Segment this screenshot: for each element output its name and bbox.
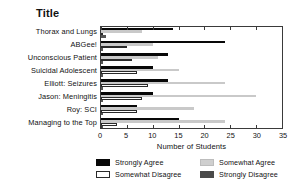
chart-legend: Strongly AgreeSomewhat AgreeSomewhat Dis… <box>96 158 292 182</box>
x-tick-label: 25 <box>227 131 235 140</box>
legend-label: Somewhat Disagree <box>115 170 181 179</box>
chart-title: Title <box>36 7 59 19</box>
bar-3 <box>101 61 103 64</box>
bar-3 <box>101 100 103 103</box>
bar-2 <box>101 59 132 62</box>
category-label: Unconscious Patient <box>0 54 97 62</box>
x-tick-mark-top <box>230 27 231 30</box>
category-axis-labels: Thorax and LungsABGee!Unconscious Patien… <box>0 26 97 129</box>
category-label: Thorax and Lungs <box>0 28 97 36</box>
x-tick-label: 20 <box>200 131 208 140</box>
bar-group <box>101 92 282 104</box>
bar-2 <box>101 110 137 113</box>
category-label: Jason: Meningitis <box>0 93 97 101</box>
legend-swatch <box>96 159 110 166</box>
x-tick-label: 5 <box>124 131 128 140</box>
bar-3 <box>101 113 103 116</box>
bar-3 <box>101 74 103 77</box>
x-tick-mark-top <box>282 27 283 30</box>
bar-group <box>101 53 282 65</box>
category-label: Managing to the Top <box>0 119 97 127</box>
bar-2 <box>101 123 117 126</box>
category-label: Suicidal Adolescent <box>0 67 97 75</box>
legend-item[interactable]: Somewhat Agree <box>200 158 275 167</box>
bar-group <box>101 105 282 117</box>
bar-group <box>101 118 282 130</box>
x-tick-mark <box>204 125 205 128</box>
x-tick-mark <box>230 125 231 128</box>
x-tick-mark-top <box>204 27 205 30</box>
bar-2 <box>101 46 127 49</box>
legend-item[interactable]: Somewhat Disagree <box>96 170 181 179</box>
x-tick-label: 0 <box>98 131 102 140</box>
x-tick-label: 10 <box>148 131 156 140</box>
category-label: Roy: SCI <box>0 106 97 114</box>
x-tick-label: 15 <box>174 131 182 140</box>
x-tick-mark-top <box>256 27 257 30</box>
plot-area <box>100 26 283 129</box>
x-axis-title: Number of Students <box>100 142 283 151</box>
x-tick-mark <box>282 125 283 128</box>
x-tick-label: 30 <box>253 131 261 140</box>
x-tick-mark <box>127 125 128 128</box>
bar-group <box>101 79 282 91</box>
legend-swatch <box>96 171 110 178</box>
legend-label: Strongly Agree <box>115 158 164 167</box>
bar-group <box>101 28 282 40</box>
legend-swatch <box>200 171 214 178</box>
legend-label: Somewhat Agree <box>219 158 275 167</box>
legend-label: Strongly Disagree <box>219 170 278 179</box>
x-tick-mark-top <box>127 27 128 30</box>
x-tick-mark-top <box>101 27 102 30</box>
x-tick-mark-top <box>179 27 180 30</box>
bar-group <box>101 66 282 78</box>
x-tick-mark <box>256 125 257 128</box>
x-tick-mark <box>153 125 154 128</box>
bar-2 <box>101 97 142 100</box>
bar-2 <box>101 71 137 74</box>
legend-swatch <box>200 159 214 166</box>
category-label: Elliott: Seizures <box>0 80 97 88</box>
bar-1 <box>101 120 225 123</box>
bar-2 <box>101 84 148 87</box>
plot-inner <box>101 27 282 128</box>
x-tick-mark-top <box>153 27 154 30</box>
bar-3 <box>101 48 103 51</box>
x-tick-mark <box>101 125 102 128</box>
bar-chart: Title Thorax and LungsABGee!Unconscious … <box>0 0 304 187</box>
bar-1 <box>101 30 142 33</box>
bar-group <box>101 41 282 53</box>
category-label: ABGee! <box>0 41 97 49</box>
bar-3 <box>101 35 106 38</box>
bar-3 <box>101 87 103 90</box>
legend-item[interactable]: Strongly Agree <box>96 158 164 167</box>
legend-item[interactable]: Strongly Disagree <box>200 170 278 179</box>
x-tick-label: 35 <box>279 131 287 140</box>
x-tick-mark <box>179 125 180 128</box>
